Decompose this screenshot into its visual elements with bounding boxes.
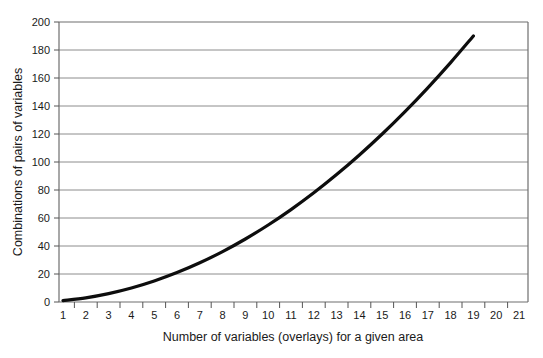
y-tick-label: 0 <box>44 296 50 308</box>
x-tick-label: 15 <box>376 309 388 321</box>
y-tick-label: 160 <box>32 72 50 84</box>
x-tick-labels: 1 2 3 4 5 6 7 8 9 10 11 12 13 14 15 16 1… <box>60 309 525 321</box>
y-tick-label: 200 <box>32 16 50 28</box>
x-tick-label: 21 <box>513 309 525 321</box>
y-tick-label: 180 <box>32 44 50 56</box>
x-tick-label: 19 <box>467 309 479 321</box>
chart-container: 200 180 160 140 120 100 80 60 40 20 0 <box>0 0 543 358</box>
x-tick-label: 9 <box>242 309 248 321</box>
x-tick-label: 12 <box>308 309 320 321</box>
x-tick-label: 5 <box>151 309 157 321</box>
x-tick-label: 8 <box>220 309 226 321</box>
x-tick-label: 6 <box>174 309 180 321</box>
y-tick-label: 80 <box>38 184 50 196</box>
y-tick-label: 100 <box>32 156 50 168</box>
x-tick-label: 18 <box>444 309 456 321</box>
y-tick-label: 20 <box>38 268 50 280</box>
x-tick-label: 2 <box>83 309 89 321</box>
y-tick-label: 120 <box>32 128 50 140</box>
y-tick-label: 40 <box>38 240 50 252</box>
x-tick-label: 1 <box>60 309 66 321</box>
x-tick-label: 20 <box>490 309 502 321</box>
x-tick-label: 7 <box>197 309 203 321</box>
x-axis-title: Number of variables (overlays) for a giv… <box>163 330 424 344</box>
x-tick-label: 13 <box>330 309 342 321</box>
y-tick-label: 140 <box>32 100 50 112</box>
y-tick-label: 60 <box>38 212 50 224</box>
x-tick-label: 17 <box>422 309 434 321</box>
x-tick-label: 10 <box>262 309 274 321</box>
x-tick-label: 14 <box>353 309 365 321</box>
x-tick-label: 3 <box>106 309 112 321</box>
x-tick-label: 4 <box>128 309 134 321</box>
combinations-line-chart: 200 180 160 140 120 100 80 60 40 20 0 <box>0 0 543 358</box>
x-tick-label: 16 <box>399 309 411 321</box>
y-axis-title: Combinations of pairs of variables <box>11 68 25 256</box>
x-tick-label: 11 <box>285 309 296 321</box>
